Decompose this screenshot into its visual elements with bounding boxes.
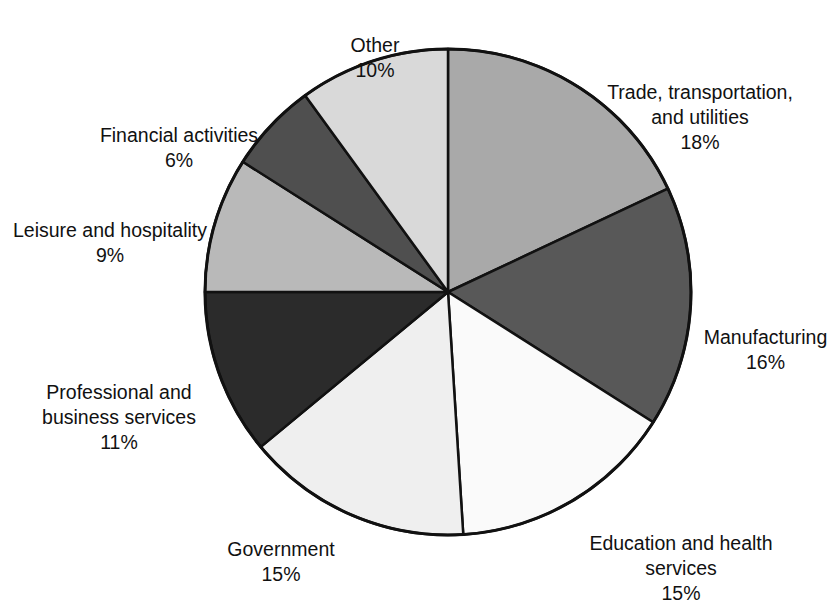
slice-label-government-name: Government [227, 538, 334, 560]
slice-label-education-pct: 15% [566, 581, 796, 604]
slice-label-other: Other 10% [300, 8, 450, 108]
slice-label-professional-name: Professional and business services [42, 381, 196, 428]
slice-label-manufacturing-name: Manufacturing [704, 326, 828, 348]
slice-label-leisure-name: Leisure and hospitality [13, 219, 207, 241]
slice-label-government-pct: 15% [198, 562, 364, 587]
slice-label-manufacturing-pct: 16% [694, 350, 837, 375]
slice-label-education: Education and health services 15% [566, 506, 796, 604]
slice-label-leisure-pct: 9% [2, 243, 218, 268]
slice-label-other-name: Other [351, 34, 400, 56]
slice-label-leisure: Leisure and hospitality 9% [2, 193, 218, 293]
slice-label-trade-name: Trade, transportation, and utilities [607, 81, 793, 128]
slice-label-professional: Professional and business services 11% [14, 355, 224, 480]
slice-label-financial-pct: 6% [84, 148, 274, 173]
slice-label-government: Government 15% [198, 512, 364, 604]
slice-label-trade: Trade, transportation, and utilities 18% [576, 55, 824, 180]
slice-label-trade-pct: 18% [576, 130, 824, 155]
slice-label-professional-pct: 11% [14, 430, 224, 455]
slice-label-financial-name: Financial activities [100, 124, 258, 146]
slice-label-financial: Financial activities 6% [84, 98, 274, 198]
slice-label-other-pct: 10% [300, 58, 450, 83]
slice-label-education-name: Education and health services [589, 532, 772, 579]
slice-label-manufacturing: Manufacturing 16% [694, 300, 837, 400]
